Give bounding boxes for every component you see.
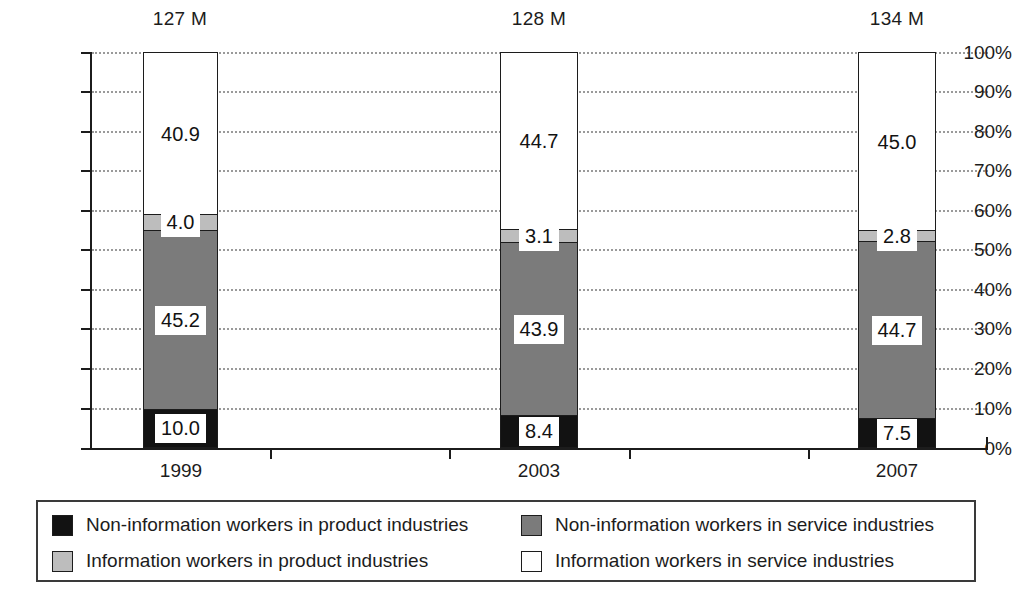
stacked-bar-chart: 127 M 128 M 134 M 100% 90% 80% 70% 60% 5… <box>0 0 1012 603</box>
legend-item-noninformation-product[interactable]: Non-information workers in product indus… <box>52 510 468 540</box>
ytick-mark-100 <box>81 52 90 54</box>
legend-item-information-service[interactable]: Information workers in service industrie… <box>521 546 894 576</box>
legend-item-information-product[interactable]: Information workers in product industrie… <box>52 546 428 576</box>
category-label-2003: 2003 <box>498 460 580 482</box>
legend-item-noninformation-service[interactable]: Non-information workers in service indus… <box>521 510 934 540</box>
segment-information-product-2003[interactable]: 3.1 <box>500 229 578 242</box>
segment-value-label: 2.8 <box>877 222 917 251</box>
ytick-label-80: 80% <box>936 121 1012 143</box>
segment-value-label: 4.0 <box>161 208 201 237</box>
legend-swatch-white-icon <box>521 551 542 572</box>
y-axis-line <box>90 52 92 450</box>
ytick-label-10: 10% <box>936 398 1012 420</box>
segment-value-label: 8.4 <box>519 417 559 446</box>
segment-value-label: 43.9 <box>514 315 565 344</box>
segment-noninformation-service-2007[interactable]: 44.7 <box>858 241 936 418</box>
segment-information-service-2007[interactable]: 45.0 <box>858 52 936 230</box>
ytick-label-40: 40% <box>936 279 1012 301</box>
segment-value-label: 40.9 <box>161 124 200 144</box>
xtick-boundary-1 <box>270 448 272 459</box>
xtick-boundary-4 <box>808 448 810 459</box>
x-axis-line <box>90 448 988 450</box>
segment-information-product-2007[interactable]: 2.8 <box>858 230 936 241</box>
ytick-mark-60 <box>81 210 90 212</box>
legend: Non-information workers in product indus… <box>36 500 976 582</box>
xtick-boundary-2 <box>449 448 451 459</box>
legend-label: Information workers in product industrie… <box>86 550 428 572</box>
segment-noninformation-product-2007[interactable]: 7.5 <box>858 418 936 448</box>
category-label-1999: 1999 <box>140 460 222 482</box>
ytick-mark-0 <box>81 448 90 450</box>
segment-value-label: 44.7 <box>872 316 923 345</box>
column-total-1999: 127 M <box>140 8 220 30</box>
legend-swatch-darkgray-icon <box>521 515 542 536</box>
ytick-mark-40 <box>81 289 90 291</box>
segment-noninformation-service-1999[interactable]: 45.2 <box>143 230 218 409</box>
segment-value-label: 7.5 <box>877 419 917 448</box>
ytick-label-90: 90% <box>936 81 1012 103</box>
bar-2007[interactable]: 45.0 2.8 44.7 7.5 <box>858 52 936 448</box>
ytick-label-100: 100% <box>936 42 1012 64</box>
ytick-mark-10 <box>81 408 90 410</box>
column-total-2007: 134 M <box>857 8 937 30</box>
bar-2003[interactable]: 44.7 3.1 43.9 8.4 <box>500 52 578 448</box>
segment-value-label: 3.1 <box>519 222 559 251</box>
xtick-boundary-3 <box>629 448 631 459</box>
ytick-label-60: 60% <box>936 200 1012 222</box>
legend-label: Non-information workers in product indus… <box>86 514 468 536</box>
category-label-2007: 2007 <box>856 460 938 482</box>
segment-information-product-1999[interactable]: 4.0 <box>143 214 218 230</box>
x-axis-end-cap <box>986 437 988 450</box>
ytick-mark-90 <box>81 91 90 93</box>
segment-information-service-2003[interactable]: 44.7 <box>500 52 578 229</box>
ytick-label-30: 30% <box>936 318 1012 340</box>
ytick-label-50: 50% <box>936 239 1012 261</box>
legend-label: Information workers in service industrie… <box>555 550 894 572</box>
ytick-mark-80 <box>81 131 90 133</box>
segment-noninformation-service-2003[interactable]: 43.9 <box>500 242 578 415</box>
segment-value-label: 45.2 <box>155 306 206 335</box>
bar-1999[interactable]: 40.9 4.0 45.2 10.0 <box>143 52 218 448</box>
segment-value-label: 44.7 <box>520 131 559 151</box>
segment-value-label: 10.0 <box>155 414 206 443</box>
ytick-mark-30 <box>81 328 90 330</box>
segment-noninformation-product-1999[interactable]: 10.0 <box>143 409 218 448</box>
ytick-mark-20 <box>81 368 90 370</box>
legend-label: Non-information workers in service indus… <box>555 514 934 536</box>
ytick-label-70: 70% <box>936 160 1012 182</box>
segment-information-service-1999[interactable]: 40.9 <box>143 52 218 214</box>
segment-value-label: 45.0 <box>878 132 917 152</box>
ytick-mark-50 <box>81 249 90 251</box>
segment-noninformation-product-2003[interactable]: 8.4 <box>500 415 578 448</box>
ytick-label-20: 20% <box>936 358 1012 380</box>
legend-swatch-lightgray-icon <box>52 551 73 572</box>
legend-swatch-black-icon <box>52 515 73 536</box>
column-total-2003: 128 M <box>499 8 579 30</box>
ytick-mark-70 <box>81 170 90 172</box>
